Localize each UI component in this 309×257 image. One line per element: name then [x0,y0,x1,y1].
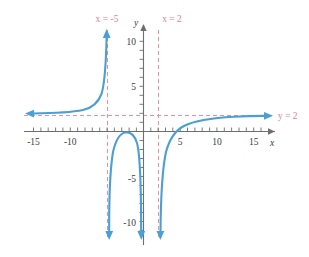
asymptote-label-x-minus-5: x = -5 [96,14,119,24]
y-axis-label: y [133,18,139,28]
x-tick-label--10: -10 [64,137,77,147]
curve-right-branch-down-arrow-icon [157,231,165,240]
x-tick-label--15: -15 [27,137,40,147]
curve-left-branch [33,37,107,114]
x-tick-label-5: 5 [178,137,183,147]
asymptote-group [24,30,272,240]
x-axis-ticks [34,128,262,132]
x-axis-label: x [269,138,275,148]
y-tick-label-10: 10 [127,37,137,47]
y-axis-arrow-icon [140,24,146,31]
curve-left-branch-up-arrow-icon [103,29,111,38]
curve-middle-branch-left-down-arrow-icon [105,231,113,240]
rational-function-plot: -15 -10 5 10 15 10 5 -5 -10 x y x = -5 x… [0,0,309,257]
y-tick-label-5: 5 [131,82,136,92]
curve-left-branch-left-arrow-icon [25,110,34,118]
x-tick-label-10: 10 [212,137,222,147]
curve-right-branch [161,116,266,232]
axes-group [24,24,275,245]
curve-group [25,29,273,240]
y-tick-label--5: -5 [128,174,136,184]
x-tick-labels: -15 -10 5 10 15 [27,137,259,147]
curve-right-branch-right-arrow-icon [264,112,273,120]
graph-figure: -15 -10 5 10 15 10 5 -5 -10 x y x = -5 x… [0,0,309,257]
x-tick-label-15: 15 [249,137,259,147]
asymptote-label-x-2: x = 2 [162,14,182,24]
asymptote-label-y-2: y = 2 [278,111,298,121]
y-tick-label--10: -10 [123,218,136,228]
x-axis-arrow-icon [268,128,275,134]
